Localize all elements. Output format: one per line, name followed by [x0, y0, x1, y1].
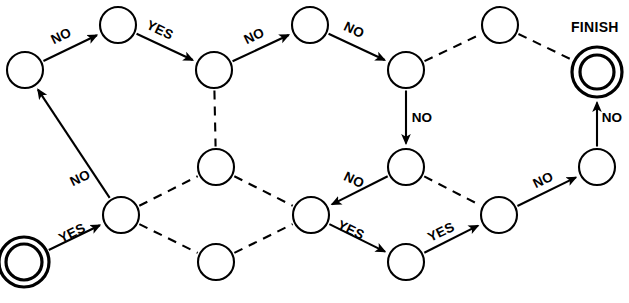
node-9-ring: [198, 244, 234, 280]
node-10-ring: [293, 197, 329, 233]
node-5-ring: [388, 52, 424, 88]
edge-n7-to-n1-label: NO: [67, 167, 92, 190]
start-node[interactable]: [0, 237, 49, 287]
flowchart-diagram: YESNONOYESNONONONOYESYESNONO FINISH: [0, 0, 629, 303]
start-node-inner-ring: [6, 244, 42, 280]
finish-label: FINISH: [571, 19, 619, 35]
node-14[interactable]: [579, 149, 615, 185]
node-13[interactable]: [481, 197, 517, 233]
node-12-ring: [388, 244, 424, 280]
node-11-ring: [388, 149, 424, 185]
edge-n14-to-finish-label: NO: [602, 110, 623, 125]
edge-start-to-n7-label: YES: [56, 220, 87, 246]
node-8-ring: [198, 149, 234, 185]
edge-n12-to-n13-label: YES: [425, 219, 456, 245]
node-13-ring: [481, 197, 517, 233]
edge-n5-to-n11-label: NO: [412, 110, 433, 125]
node-1[interactable]: [7, 52, 43, 88]
edge-n7-to-n8: [139, 176, 197, 206]
edge-n7-to-n9: [139, 224, 197, 253]
node-12[interactable]: [388, 244, 424, 280]
edge-n3-to-n4-label: NO: [241, 25, 266, 48]
node-14-ring: [579, 149, 615, 185]
node-2-ring: [100, 7, 136, 43]
node-7[interactable]: [103, 197, 139, 233]
node-1-ring: [7, 52, 43, 88]
node-10[interactable]: [293, 197, 329, 233]
node-4[interactable]: [292, 7, 328, 43]
node-5[interactable]: [388, 52, 424, 88]
node-8[interactable]: [198, 149, 234, 185]
edge-n4-to-n5-label: NO: [341, 19, 366, 42]
node-layer: [0, 7, 622, 287]
finish-node[interactable]: [572, 47, 622, 97]
node-2[interactable]: [100, 7, 136, 43]
edge-n6-to-finish: [518, 34, 572, 60]
edge-n9-to-n10: [234, 224, 292, 253]
edge-n5-to-n6: [424, 34, 481, 61]
edge-n10-to-n12-label: YES: [335, 217, 366, 243]
finish-node-inner-ring: [580, 55, 614, 89]
edge-n8-to-n10: [234, 176, 292, 206]
flowchart-canvas: YESNONOYESNONONONOYESYESNONO FINISH: [0, 0, 629, 303]
node-4-ring: [292, 7, 328, 43]
node-3[interactable]: [196, 52, 232, 88]
node-9[interactable]: [198, 244, 234, 280]
edge-n11-to-n13: [424, 176, 481, 205]
edge-n1-to-n2-label: NO: [48, 25, 73, 48]
node-3-ring: [196, 52, 232, 88]
edge-n13-to-n14-label: NO: [530, 169, 555, 192]
node-7-ring: [103, 197, 139, 233]
node-11[interactable]: [388, 149, 424, 185]
edge-n3-to-n8: [214, 91, 215, 147]
node-6-ring: [482, 7, 518, 43]
node-6[interactable]: [482, 7, 518, 43]
